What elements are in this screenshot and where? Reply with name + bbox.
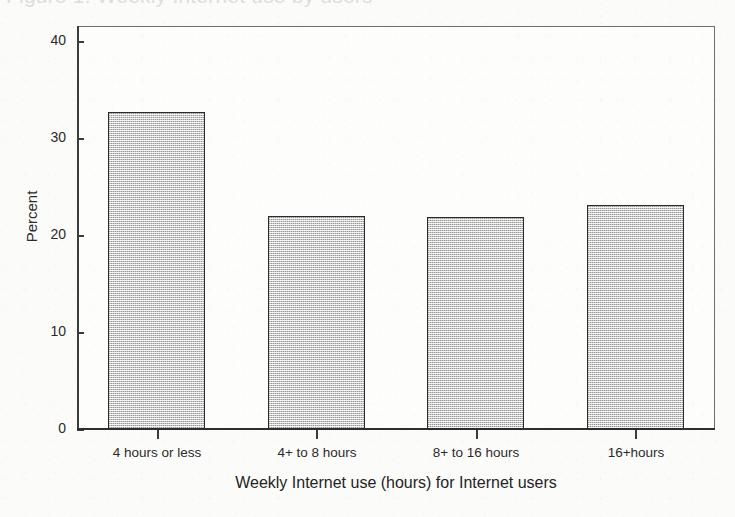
chart-title-text: Figure 1. Weekly Internet use by users — [6, 0, 735, 6]
x-tick-mark — [635, 430, 637, 439]
x-tick-mark — [316, 430, 318, 439]
y-axis-spine — [77, 26, 79, 430]
x-tick-label: 4 hours or less — [77, 445, 237, 460]
y-tick-label: 30 — [26, 129, 66, 145]
y-tick-label: 40 — [26, 32, 66, 48]
x-axis-baseline — [77, 428, 715, 430]
bar-chart-figure: Figure 1. Weekly Internet use by users P… — [0, 0, 735, 517]
y-axis-title: Percent — [23, 172, 40, 262]
bar — [108, 112, 205, 429]
x-tick-mark — [157, 430, 159, 439]
bar — [587, 205, 684, 429]
chart-title-remnant: Figure 1. Weekly Internet use by users — [0, 0, 735, 7]
y-tick-label: 10 — [26, 323, 66, 339]
x-tick-label: 8+ to 16 hours — [396, 445, 556, 460]
x-tick-mark — [476, 430, 478, 439]
bar — [427, 217, 524, 429]
y-tick-label: 20 — [26, 226, 66, 242]
x-tick-label: 4+ to 8 hours — [237, 445, 397, 460]
bar — [268, 216, 365, 429]
x-axis-title: Weekly Internet use (hours) for Internet… — [77, 474, 715, 492]
x-tick-label: 16+hours — [556, 445, 716, 460]
y-tick-label: 0 — [26, 420, 66, 436]
